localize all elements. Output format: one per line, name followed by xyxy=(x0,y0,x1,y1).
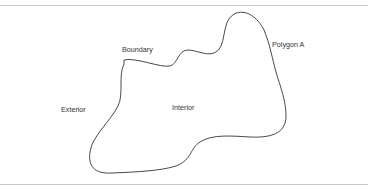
polygon-diagram: Boundary Polygon A Exterior Interior xyxy=(0,0,375,188)
bottom-divider xyxy=(0,184,368,185)
boundary-label: Boundary xyxy=(122,46,153,53)
exterior-label: Exterior xyxy=(61,106,86,113)
polygon-boundary-curve xyxy=(90,12,286,173)
polygon-a-label: Polygon A xyxy=(272,41,304,48)
polygon-outline xyxy=(0,0,375,188)
interior-label: Interior xyxy=(172,104,194,111)
